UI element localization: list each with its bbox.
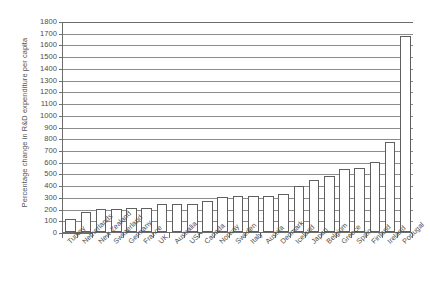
x-axis-tick-labels: TurkeyNetherlandsNew ZealandSwitzerlandG… [0,0,430,297]
x-tick-label: UK [157,233,170,246]
x-tick-label: Portugal [401,221,426,246]
bar-chart: Percentage change in R&D expenditure per… [0,0,430,297]
